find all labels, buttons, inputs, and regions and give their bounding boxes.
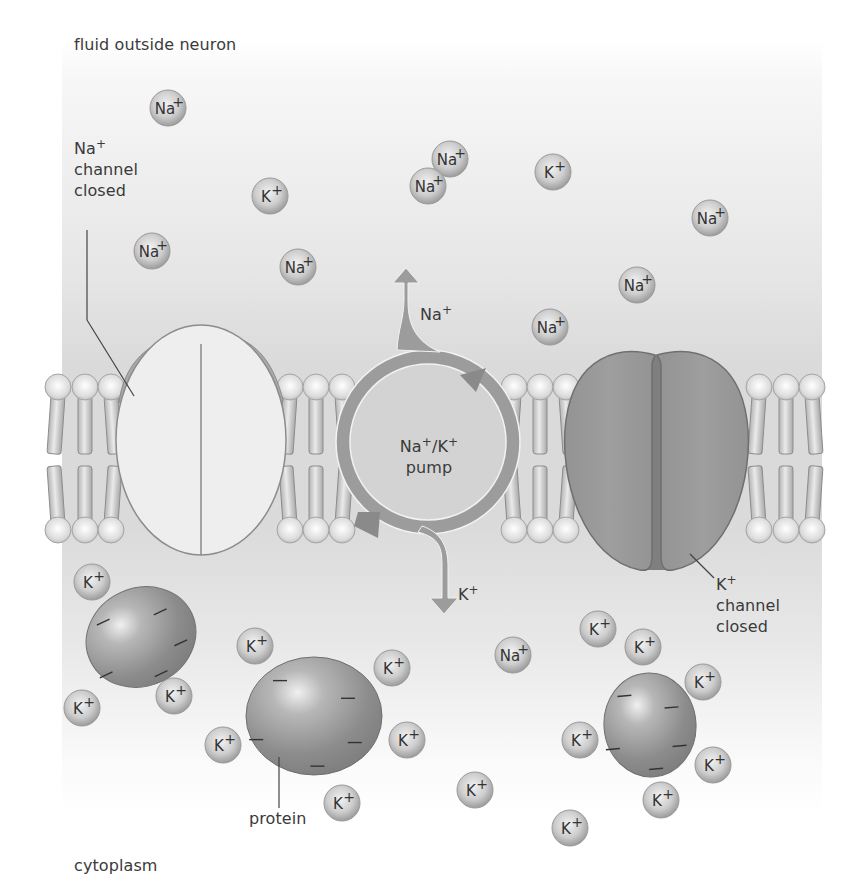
sodium-ion: Na+: [532, 309, 568, 345]
potassium-ion: K+: [156, 678, 192, 714]
lipid-head-inner: [329, 517, 355, 543]
svg-text:+: +: [408, 726, 420, 742]
svg-text:+: +: [644, 633, 656, 649]
svg-text:+: +: [581, 726, 593, 742]
svg-text:+: +: [83, 694, 95, 710]
svg-text:+: +: [641, 271, 653, 287]
k-channel-closed: [565, 352, 749, 571]
potassium-ion: K+: [74, 564, 110, 600]
svg-text:+: +: [454, 145, 466, 161]
k-channel-label-line1: channel: [716, 595, 780, 616]
lipid-head-outer: [303, 374, 329, 400]
sodium-ion: Na+: [280, 249, 316, 285]
svg-text:+: +: [714, 204, 726, 220]
protein: [246, 657, 382, 775]
na-channel-label-ion: Na: [74, 139, 96, 158]
sodium-ion: Na+: [410, 168, 446, 204]
lipid-head-outer: [773, 374, 799, 400]
protein-label: protein: [249, 808, 307, 829]
lipid-head-inner: [746, 517, 772, 543]
k-channel-label: K+ channel closed: [716, 574, 780, 637]
na-channel-label-line1: channel: [74, 159, 138, 180]
potassium-ion: K+: [237, 628, 273, 664]
pump-label-line2: pump: [391, 457, 467, 478]
sodium-ion: Na+: [619, 267, 655, 303]
potassium-ion: K+: [389, 722, 425, 758]
lipid-head-inner: [303, 517, 329, 543]
potassium-ion: K+: [643, 782, 679, 818]
lipid-head-inner: [799, 517, 825, 543]
lipid-head-inner: [45, 517, 71, 543]
svg-text:+: +: [93, 568, 105, 584]
lipid-head-inner: [501, 517, 527, 543]
lipid-head-inner: [773, 517, 799, 543]
potassium-ion: K+: [685, 664, 721, 700]
sodium-ion: Na+: [692, 200, 728, 236]
lipid-head-outer: [799, 374, 825, 400]
svg-text:+: +: [175, 682, 187, 698]
svg-text:+: +: [432, 172, 444, 188]
potassium-ion: K+: [580, 611, 616, 647]
na-channel-label-line2: closed: [74, 180, 138, 201]
potassium-ion: K+: [64, 690, 100, 726]
potassium-ion: K+: [535, 154, 571, 190]
outside-region-label: fluid outside neuron: [74, 34, 236, 55]
svg-text:+: +: [714, 751, 726, 767]
svg-text:+: +: [172, 94, 184, 110]
potassium-ion: K+: [324, 785, 360, 821]
lipid-head-inner: [277, 517, 303, 543]
lipid-head-outer: [527, 374, 553, 400]
lipid-head-outer: [746, 374, 772, 400]
svg-text:+: +: [271, 182, 283, 198]
potassium-ion: K+: [562, 722, 598, 758]
lipid-head-inner: [527, 517, 553, 543]
svg-text:+: +: [302, 253, 314, 269]
svg-text:+: +: [599, 615, 611, 631]
k-channel-label-line2: closed: [716, 616, 780, 637]
sodium-ion: Na+: [134, 233, 170, 269]
svg-text:+: +: [517, 641, 529, 657]
potassium-ion: K+: [252, 178, 288, 214]
svg-text:+: +: [256, 632, 268, 648]
potassium-ion: K+: [205, 727, 241, 763]
potassium-ion: K+: [552, 810, 588, 846]
svg-text:+: +: [704, 668, 716, 684]
potassium-ion: K+: [374, 650, 410, 686]
svg-text:+: +: [662, 786, 674, 802]
lipid-head-inner: [553, 517, 579, 543]
cytoplasm-region-label: cytoplasm: [74, 855, 158, 876]
sodium-ion: Na+: [150, 90, 186, 126]
lipid-head-outer: [72, 374, 98, 400]
pump-label: Na+/K+ pump: [391, 436, 467, 478]
potassium-ion: K+: [625, 629, 661, 665]
potassium-ion: K+: [695, 747, 731, 783]
potassium-ion: K+: [457, 772, 493, 808]
svg-text:+: +: [393, 654, 405, 670]
svg-text:+: +: [476, 776, 488, 792]
lipid-head-inner: [98, 517, 124, 543]
na-channel-closed: [116, 325, 286, 555]
svg-text:+: +: [156, 237, 168, 253]
lipid-head-outer: [45, 374, 71, 400]
pump-k-label: K+: [458, 584, 479, 605]
svg-text:+: +: [224, 731, 236, 747]
svg-text:+: +: [554, 158, 566, 174]
sodium-ion: Na+: [495, 637, 531, 673]
na-channel-label: Na+ channel closed: [74, 138, 138, 201]
lipid-head-inner: [72, 517, 98, 543]
svg-text:+: +: [571, 814, 583, 830]
neuron-membrane-diagram: Na+K+Na+Na+Na+Na+K+Na+Na+Na+K+K+K+K+K+K+…: [0, 0, 844, 895]
svg-text:+: +: [554, 313, 566, 329]
svg-text:+: +: [343, 789, 355, 805]
pump-na-label: Na+: [420, 304, 452, 325]
